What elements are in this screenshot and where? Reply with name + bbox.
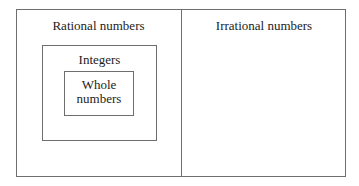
- whole-numbers-box: Whole numbers: [64, 71, 134, 116]
- irrational-numbers-label: Irrational numbers: [182, 18, 346, 34]
- integers-label: Integers: [43, 52, 156, 67]
- rational-numbers-label: Rational numbers: [16, 18, 181, 34]
- whole-numbers-label-line1: Whole: [65, 78, 133, 92]
- whole-numbers-label: Whole numbers: [65, 78, 133, 106]
- whole-numbers-label-line2: numbers: [65, 92, 133, 106]
- rational-irrational-divider: [181, 9, 182, 177]
